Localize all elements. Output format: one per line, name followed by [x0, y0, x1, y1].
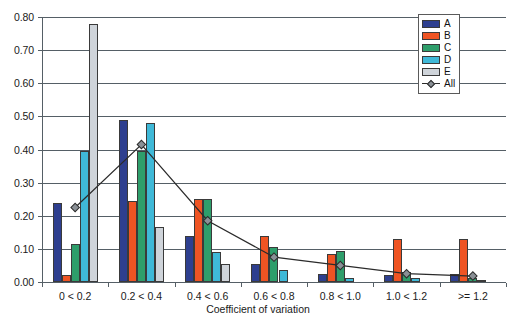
y-tick-label: 0.80 [0, 11, 34, 23]
x-tick-mark [42, 283, 43, 287]
y-tick-label: 0.20 [0, 210, 34, 222]
x-tick-label: >= 1.2 [440, 290, 506, 302]
legend-item-all[interactable]: All [422, 78, 455, 89]
y-axis-line [42, 17, 43, 283]
x-tick-mark [307, 283, 308, 287]
legend-item-e[interactable]: E [422, 66, 455, 77]
legend-item-b[interactable]: B [422, 30, 455, 41]
bar-b-6 [459, 239, 468, 282]
y-tick-label: 0.50 [0, 110, 34, 122]
y-tick-label: 0.00 [0, 276, 34, 288]
bar-c-5 [402, 272, 411, 282]
x-tick-mark [506, 283, 507, 287]
bar-b-1 [128, 201, 137, 282]
chart-container: 0.000.100.200.300.400.500.600.700.800 < … [0, 0, 516, 326]
y-gridline [42, 150, 506, 151]
legend-swatch-e [422, 68, 440, 76]
x-tick-mark [241, 283, 242, 287]
legend-item-c[interactable]: C [422, 42, 455, 53]
legend-label: C [444, 43, 451, 53]
x-tick-mark [108, 283, 109, 287]
x-tick-label: 0.6 < 0.8 [241, 290, 307, 302]
bar-e-1 [155, 227, 164, 282]
all-series-marker-0 [71, 203, 79, 211]
legend-item-a[interactable]: A [422, 18, 455, 29]
legend-swatch-c [422, 44, 440, 52]
bar-b-5 [393, 239, 402, 282]
x-tick-mark [175, 283, 176, 287]
legend-swatch-a [422, 20, 440, 28]
bar-a-5 [384, 275, 393, 282]
y-tick-label: 0.60 [0, 77, 34, 89]
x-axis-line [42, 282, 506, 283]
bar-b-4 [327, 254, 336, 282]
legend-label: E [444, 67, 451, 77]
x-tick-label: 0.8 < 1.0 [307, 290, 373, 302]
bar-b-3 [260, 236, 269, 282]
bar-c-2 [203, 199, 212, 282]
x-tick-label: 0 < 0.2 [42, 290, 108, 302]
bar-c-1 [137, 151, 146, 282]
bar-a-4 [318, 274, 327, 282]
bar-a-2 [185, 236, 194, 282]
y-tick-label: 0.40 [0, 144, 34, 156]
chart-legend: ABCDEAll [418, 14, 460, 94]
all-series-marker-1 [137, 140, 145, 148]
bar-e-2 [221, 264, 230, 282]
bar-d-5 [411, 278, 420, 282]
x-tick-label: 0.2 < 0.4 [108, 290, 174, 302]
bar-c-0 [71, 244, 80, 282]
bar-d-6 [477, 280, 486, 282]
bar-d-4 [345, 278, 354, 282]
bar-e-0 [89, 24, 98, 282]
x-tick-label: 0.4 < 0.6 [175, 290, 241, 302]
x-axis-title: Coefficient of variation [0, 303, 516, 315]
bar-c-6 [468, 278, 477, 282]
bar-a-3 [251, 264, 260, 282]
y-gridline [42, 216, 506, 217]
bar-a-1 [119, 120, 128, 282]
x-tick-mark [440, 283, 441, 287]
legend-line-marker-icon [422, 80, 440, 88]
x-tick-mark [373, 283, 374, 287]
legend-item-d[interactable]: D [422, 54, 455, 65]
x-tick-label: 1.0 < 1.2 [373, 290, 439, 302]
bar-c-3 [269, 247, 278, 282]
y-gridline [42, 116, 506, 117]
bar-d-3 [279, 270, 288, 282]
legend-swatch-b [422, 32, 440, 40]
bar-b-0 [62, 275, 71, 282]
legend-swatch-d [422, 56, 440, 64]
bar-d-0 [80, 151, 89, 282]
legend-label: B [444, 31, 451, 41]
y-tick-label: 0.10 [0, 243, 34, 255]
y-gridline [42, 183, 506, 184]
y-tick-label: 0.30 [0, 177, 34, 189]
bar-a-0 [53, 203, 62, 283]
legend-label: D [444, 55, 451, 65]
bar-b-2 [194, 199, 203, 282]
y-tick-label: 0.70 [0, 44, 34, 56]
bar-d-1 [146, 123, 155, 282]
bar-c-4 [336, 251, 345, 282]
legend-label: All [444, 79, 455, 89]
bar-d-2 [212, 252, 221, 282]
legend-label: A [444, 19, 451, 29]
bar-a-6 [450, 274, 459, 282]
